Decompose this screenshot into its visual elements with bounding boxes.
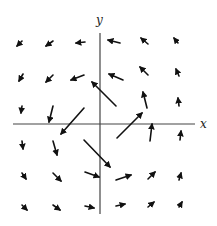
vector-arrow <box>53 205 60 210</box>
vector-arrow <box>180 131 181 140</box>
vector-arrow <box>92 82 116 106</box>
vector-arrow <box>148 172 155 179</box>
vector-arrow <box>109 74 123 80</box>
vector-arrow <box>61 108 84 134</box>
vector-arrow <box>141 38 148 44</box>
vector-arrow <box>143 92 147 108</box>
vector-arrow <box>53 141 57 155</box>
vector-arrow <box>76 42 85 43</box>
vector-arrow <box>174 38 178 43</box>
x-axis-label: x <box>200 117 207 131</box>
vector-arrow <box>21 106 22 113</box>
vector-arrow <box>22 205 27 210</box>
y-axis-label: y <box>95 13 103 27</box>
vector-arrow <box>150 124 152 141</box>
vector-arrow <box>53 173 61 181</box>
vector-arrow <box>19 74 23 81</box>
vector-arrow <box>71 75 84 80</box>
vector-arrow <box>108 40 120 43</box>
vector-arrow <box>85 206 94 208</box>
vector-arrow <box>179 202 182 207</box>
vector-arrow <box>17 41 22 46</box>
vector-arrow <box>116 204 125 206</box>
vector-arrow <box>116 175 131 180</box>
vector-arrow <box>179 173 181 180</box>
vector-arrow <box>117 113 142 138</box>
vector-arrow <box>46 41 53 46</box>
vector-arrow <box>22 173 26 179</box>
vector-field-diagram: x y <box>0 0 217 226</box>
vector-arrow <box>49 106 53 122</box>
vector-arrow <box>178 98 179 106</box>
vector-arrow <box>148 202 154 207</box>
vector-arrow <box>176 69 179 76</box>
vector-arrow <box>84 140 110 167</box>
vector-arrow <box>22 141 23 149</box>
vector-arrow <box>140 67 148 75</box>
vector-arrow <box>46 75 53 82</box>
vector-arrow <box>85 172 99 177</box>
